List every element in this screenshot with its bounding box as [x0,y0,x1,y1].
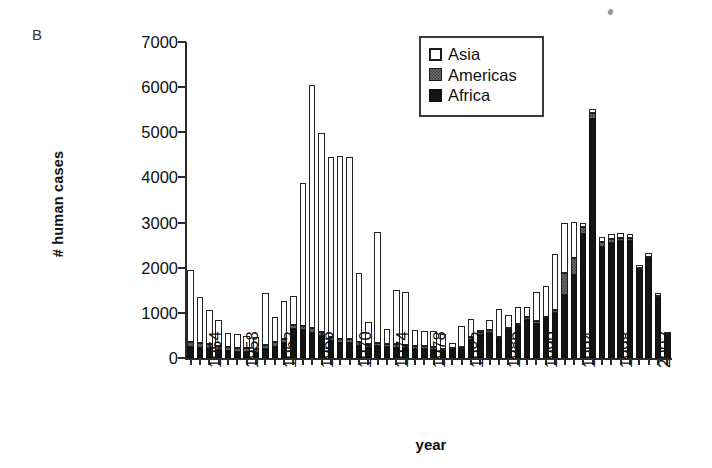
bar-segment-africa [384,347,391,358]
bar-segment-africa [524,320,531,358]
bar-1954 [197,297,204,358]
black-square-swatch [429,89,442,102]
y-axis-tick [178,41,186,43]
bar-1953 [187,270,194,358]
bar-segment-africa [187,347,194,358]
chart-legend: Asia Americas Africa [419,36,544,117]
bar-1998 [608,234,615,358]
bar-1996 [589,109,596,358]
y-tick-label: 7000 [141,33,178,52]
bar-1969 [337,156,344,358]
figure-panel-b: B # human cases 010002000300040005000600… [0,0,712,468]
bar-segment-asia [234,334,241,348]
x-axis-tick [461,358,463,365]
bar-segment-asia [412,330,419,346]
x-axis-tick [190,358,192,365]
x-tick-label: 1974 [393,331,412,368]
bar-segment-asia [496,309,503,337]
x-axis-tick [302,358,304,365]
y-tick-label: 1000 [141,303,178,322]
bar-segment-americas [561,273,568,295]
bar-1986 [496,309,503,358]
bar-1957 [225,333,232,358]
bar-1958 [234,334,241,358]
bar-segment-africa [496,339,503,358]
bar-1985 [486,320,493,358]
bar-segment-asia [318,133,325,333]
scan-artifact-speck [607,8,614,16]
y-tick-label: 2000 [141,258,178,277]
bar-segment-asia [515,307,522,324]
bar-segment-africa [197,348,204,358]
x-axis-tick [236,358,238,365]
bar-1965 [300,183,307,358]
bar-segment-africa [262,349,269,358]
x-tick-label: 2002 [655,331,674,368]
x-tick-label: 1962 [281,331,300,368]
bar-1968 [328,157,335,358]
bar-1967 [318,133,325,358]
bar-segment-africa [412,349,419,358]
x-tick-label: 1990 [542,331,561,368]
bar-segment-asia [309,85,316,328]
bar-segment-asia [337,156,344,339]
x-axis-tick [610,358,612,365]
bar-segment-asia [328,157,335,337]
bar-segment-asia [421,331,428,346]
bar-segment-asia [543,286,550,317]
x-axis-tick [535,358,537,365]
legend-item: Asia [429,46,534,63]
y-axis-tick-labels: 01000200030004000500060007000 [100,42,178,358]
bar-segment-africa [561,295,568,358]
y-axis-tick [178,176,186,178]
bar-segment-africa [589,119,596,358]
bar-segment-asia [505,315,512,328]
y-tick-label: 6000 [141,78,178,97]
panel-label: B [32,26,43,43]
bar-segment-africa [608,243,615,358]
x-axis-tick [349,358,351,365]
bar-segment-africa [599,247,606,358]
bar-segment-asia [486,320,493,330]
x-axis-title: year [0,436,712,453]
legend-label: Americas [448,67,517,84]
bar-1966 [309,85,316,358]
legend-item: Americas [429,67,534,84]
x-axis-tick [274,358,276,365]
bar-1982 [458,326,465,358]
x-axis-tick [638,358,640,365]
legend-item: Africa [429,87,534,104]
bar-segment-africa [300,330,307,358]
y-axis-title: # human cases [50,104,66,304]
bar-1990 [533,292,540,358]
y-tick-label: 0 [169,349,178,368]
bar-segment-africa [533,324,540,358]
bar-segment-africa [374,346,381,358]
bar-segment-africa [309,333,316,358]
x-tick-label: 1954 [206,331,225,368]
y-axis-tick [178,267,186,269]
bar-2002 [645,253,652,358]
x-axis-tick [264,358,266,365]
bar-segment-asia [374,232,381,343]
x-axis-tick [498,358,500,365]
bar-segment-asia [197,297,204,343]
x-axis-tick [199,358,201,365]
bar-1970 [346,157,353,358]
bar-1978 [421,331,428,358]
bar-segment-asia [272,317,279,342]
y-axis-tick [178,222,186,224]
bar-segment-africa [421,349,428,358]
bar-segment-africa [449,350,456,358]
open-square-swatch [429,48,442,61]
bar-segment-asia [561,223,568,274]
bar-segment-asia [262,293,269,345]
bar-segment-africa [225,351,232,358]
bar-segment-asia [346,157,353,339]
x-axis-tick [377,358,379,365]
x-axis-tick [648,358,650,365]
bar-1981 [449,343,456,358]
legend-label: Africa [448,87,490,104]
bar-segment-asia [187,270,194,342]
bar-1977 [412,330,419,358]
